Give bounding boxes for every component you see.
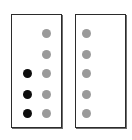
left-panel-black-dot-4[interactable] [23,90,32,99]
left-panel-gray-dot-2[interactable] [42,50,51,59]
left-panel-black-dot-3[interactable] [23,69,32,78]
left-panel-black-dot-5[interactable] [23,109,32,118]
right-panel-gray-dot-4[interactable] [82,90,91,99]
right-panel-gray-dot-3[interactable] [82,69,91,78]
left-panel-gray-dot-4[interactable] [42,90,51,99]
diagram-canvas [0,0,132,140]
left-panel-gray-dot-1[interactable] [42,29,51,38]
right-panel[interactable] [75,14,126,128]
left-panel-gray-dot-5[interactable] [42,109,51,118]
right-panel-gray-dot-1[interactable] [82,29,91,38]
left-panel-gray-dot-3[interactable] [42,69,51,78]
left-panel[interactable] [11,14,62,128]
right-panel-gray-dot-5[interactable] [82,109,91,118]
right-panel-gray-dot-2[interactable] [82,50,91,59]
